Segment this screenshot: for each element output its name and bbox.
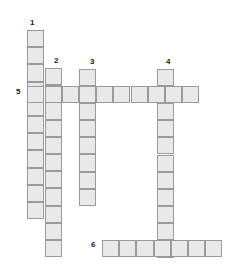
crossword-cell[interactable] <box>157 120 174 137</box>
crossword-cell[interactable] <box>27 133 44 150</box>
crossword-cell[interactable] <box>27 116 44 133</box>
crossword-cell[interactable] <box>45 86 62 103</box>
crossword-cell[interactable] <box>131 86 148 103</box>
crossword-cell[interactable] <box>79 189 96 206</box>
crossword-cell[interactable] <box>79 86 96 103</box>
crossword-cell[interactable] <box>157 189 174 206</box>
crossword-cell[interactable] <box>79 172 96 189</box>
crossword-cell[interactable] <box>27 86 44 103</box>
clue-number-4: 4 <box>166 58 170 66</box>
crossword-cell[interactable] <box>182 86 199 103</box>
crossword-cell[interactable] <box>119 240 136 257</box>
crossword-cell[interactable] <box>45 102 62 119</box>
crossword-cell[interactable] <box>45 68 62 85</box>
crossword-cell[interactable] <box>45 223 62 240</box>
crossword-cell[interactable] <box>27 185 44 202</box>
crossword-cell[interactable] <box>62 86 79 103</box>
crossword-cell[interactable] <box>171 240 188 257</box>
crossword-cell[interactable] <box>27 150 44 167</box>
crossword-cell[interactable] <box>45 137 62 154</box>
crossword-cell[interactable] <box>27 168 44 185</box>
crossword-cell[interactable] <box>79 103 96 120</box>
crossword-cell[interactable] <box>113 86 130 103</box>
crossword-cell[interactable] <box>79 120 96 137</box>
crossword-cell[interactable] <box>96 86 113 103</box>
clue-number-1: 1 <box>30 19 34 27</box>
crossword-cell[interactable] <box>157 137 174 154</box>
crossword-cell[interactable] <box>157 206 174 223</box>
clue-number-6: 6 <box>91 241 95 249</box>
crossword-cell[interactable] <box>157 155 174 172</box>
clue-number-5: 5 <box>16 88 20 96</box>
crossword-cell[interactable] <box>205 240 222 257</box>
crossword-cell[interactable] <box>148 86 165 103</box>
crossword-cell[interactable] <box>102 240 119 257</box>
crossword-cell[interactable] <box>27 47 44 64</box>
crossword-cell[interactable] <box>157 103 174 120</box>
crossword-cell[interactable] <box>157 69 174 86</box>
crossword-cell[interactable] <box>79 154 96 171</box>
crossword-cell[interactable] <box>27 202 44 219</box>
clue-number-2: 2 <box>54 57 58 65</box>
crossword-cell[interactable] <box>27 30 44 47</box>
crossword-grid: 123456 <box>0 0 242 267</box>
crossword-cell[interactable] <box>79 137 96 154</box>
clue-number-3: 3 <box>90 58 94 66</box>
crossword-cell[interactable] <box>79 69 96 86</box>
crossword-cell[interactable] <box>45 188 62 205</box>
crossword-cell[interactable] <box>165 86 182 103</box>
crossword-cell[interactable] <box>45 120 62 137</box>
crossword-cell[interactable] <box>188 240 205 257</box>
crossword-cell[interactable] <box>27 64 44 81</box>
crossword-cell[interactable] <box>154 240 171 257</box>
crossword-cell[interactable] <box>45 240 62 257</box>
crossword-cell[interactable] <box>45 206 62 223</box>
crossword-cell[interactable] <box>45 171 62 188</box>
crossword-cell[interactable] <box>157 223 174 240</box>
crossword-cell[interactable] <box>45 154 62 171</box>
crossword-cell[interactable] <box>136 240 153 257</box>
crossword-cell[interactable] <box>157 172 174 189</box>
